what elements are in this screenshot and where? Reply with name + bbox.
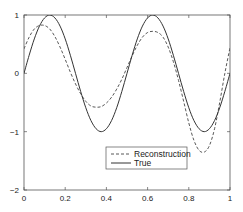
line-chart: 00.20.40.60.81 −2−101 Reconstruction Tru… (0, 0, 243, 212)
x-tick-label: 0.8 (183, 194, 195, 203)
y-tick-label: −2 (10, 186, 20, 195)
y-tick-label: 0 (15, 69, 20, 78)
y-axis-tick-labels: −2−101 (10, 11, 20, 195)
x-axis-tick-labels: 00.20.40.60.81 (22, 194, 233, 203)
x-tick-label: 0 (22, 194, 27, 203)
y-tick-label: 1 (15, 11, 20, 20)
legend-label-true: True (134, 158, 151, 168)
x-tick-label: 1 (228, 194, 233, 203)
x-tick-label: 0.6 (142, 194, 154, 203)
y-tick-label: −1 (10, 128, 20, 137)
legend: Reconstruction True (106, 147, 191, 169)
x-tick-label: 0.4 (101, 194, 113, 203)
x-tick-label: 0.2 (60, 194, 72, 203)
